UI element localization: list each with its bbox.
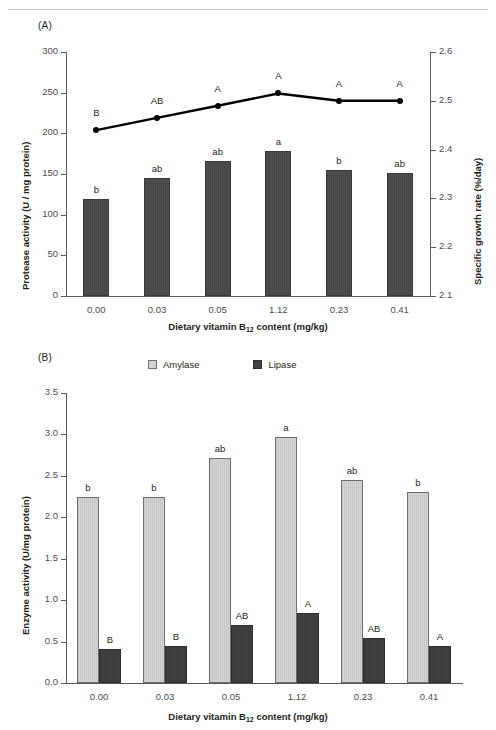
panel-b-bar-amylase [209, 458, 231, 683]
panel-b-y-tick-label: 1.5 [24, 552, 58, 563]
panel-a-line-sig-label: AB [137, 95, 177, 106]
panel-b-x-tick-label: 0.03 [139, 691, 191, 702]
panel-b-y-tick-label: 3.5 [24, 386, 58, 397]
panel-b-x-tick-label: 0.41 [403, 691, 455, 702]
panel-b-y-tick-label: 0.0 [24, 676, 58, 687]
panel-b-y-tick [61, 476, 66, 477]
panel-b-lipase-sig-label: AB [354, 623, 394, 634]
panel-b-x-axis [66, 683, 463, 684]
panel-a-line-sig-label: A [319, 78, 359, 89]
panel-b-amylase-sig-label: b [134, 482, 174, 493]
panel-b-lipase-sig-label: B [90, 634, 130, 645]
panel-b-lipase-sig-label: A [288, 598, 328, 609]
panel-b-y-tick [61, 393, 66, 394]
panel-b-y-axis [66, 393, 67, 683]
panel-a-line-marker [336, 98, 342, 104]
panel-b-y-tick-label: 2.5 [24, 469, 58, 480]
panel-b-x-title-tail: content (mg/kg) [254, 711, 328, 722]
panel-b-x-tick-label: 1.12 [271, 691, 323, 702]
panel-b-plot-area: 0.00.51.01.52.02.53.03.5bB0.00bB0.03abAB… [0, 345, 496, 705]
panel-b-bar-amylase [143, 497, 165, 683]
panel-a-x-title-tail: content (mg/kg) [254, 321, 328, 332]
panel-b-bar-lipase [363, 638, 385, 683]
panel-b-x-tick-label: 0.00 [73, 691, 125, 702]
panel-b-y-tick [61, 517, 66, 518]
panel-b: (B) AmylaseLipase Enzyme activity (U/mg … [0, 345, 496, 730]
panel-b-amylase-sig-label: a [266, 422, 306, 433]
panel-b-y-tick [61, 683, 66, 684]
panel-b-bar-amylase [77, 497, 99, 683]
panel-b-y-tick-label: 1.0 [24, 593, 58, 604]
panel-b-x-tick-label: 0.23 [337, 691, 389, 702]
panel-a-line-sig-label: A [380, 78, 420, 89]
panel-b-amylase-sig-label: b [68, 482, 108, 493]
panel-b-y-tick [61, 600, 66, 601]
panel-b-lipase-sig-label: B [156, 631, 196, 642]
panel-a: (A) Protease activity (U / mg protein) S… [0, 0, 496, 345]
panel-b-y-tick [61, 642, 66, 643]
panel-b-bar-amylase [275, 437, 297, 683]
panel-b-amylase-sig-label: b [398, 477, 438, 488]
panel-b-y-tick [61, 434, 66, 435]
panel-b-y-tick-label: 3.0 [24, 427, 58, 438]
panel-a-line-marker [154, 115, 160, 121]
panel-b-x-tick-label: 0.05 [205, 691, 257, 702]
panel-b-bar-amylase [407, 492, 429, 683]
panel-b-lipase-sig-label: A [420, 631, 460, 642]
panel-b-bar-lipase [99, 649, 121, 683]
panel-a-line-sig-label: A [198, 83, 238, 94]
panel-a-line-sig-label: A [258, 70, 298, 81]
panel-b-amylase-sig-label: ab [332, 465, 372, 476]
panel-b-y-tick-label: 0.5 [24, 635, 58, 646]
panel-b-amylase-sig-label: ab [200, 443, 240, 454]
panel-b-bar-lipase [297, 613, 319, 683]
panel-a-line-marker [397, 98, 403, 104]
panel-a-x-title-sub: 12 [246, 326, 254, 333]
panel-a-line-marker [215, 103, 221, 109]
panel-a-sgr-line [0, 0, 496, 320]
panel-b-x-title-sub: 12 [246, 716, 254, 723]
panel-a-x-axis-title: Dietary vitamin B12 content (mg/kg) [0, 321, 496, 333]
panel-b-x-axis-title: Dietary vitamin B12 content (mg/kg) [0, 711, 496, 723]
panel-b-bar-amylase [341, 480, 363, 683]
panel-b-bar-lipase [165, 646, 187, 683]
panel-a-plot-area: 0501001502002503002.12.22.32.42.52.6b0.0… [0, 0, 496, 320]
panel-b-bar-lipase [429, 646, 451, 683]
panel-a-line-sig-label: B [76, 107, 116, 118]
panel-b-x-title-main: Dietary vitamin B [168, 711, 246, 722]
panel-b-y-tick [61, 559, 66, 560]
panel-a-x-title-main: Dietary vitamin B [168, 321, 246, 332]
panel-b-lipase-sig-label: AB [222, 610, 262, 621]
panel-b-bar-lipase [231, 625, 253, 683]
panel-b-y-tick-label: 2.0 [24, 510, 58, 521]
